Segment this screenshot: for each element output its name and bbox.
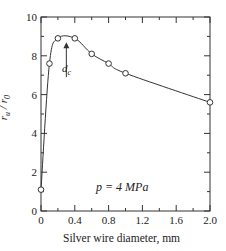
chart-canvas: 00.40.81.21.62.00246810	[0, 0, 226, 251]
data-point	[123, 70, 129, 76]
dc-sub: c	[68, 68, 72, 77]
x-tick-label: 0.4	[68, 214, 82, 226]
x-tick-label: 0.8	[102, 214, 116, 226]
data-point	[47, 61, 53, 67]
data-point	[38, 187, 44, 193]
data-point	[89, 51, 95, 57]
x-tick-label: 1.2	[136, 214, 150, 226]
y-tick-label: 8	[32, 50, 38, 62]
y-tick-label: 2	[32, 166, 38, 178]
dc-annotation: dc	[62, 62, 71, 77]
y-tick-label: 10	[26, 11, 38, 23]
x-axis-label: Silver wire diameter, mm	[63, 232, 180, 244]
x-tick-label: 2.0	[203, 214, 217, 226]
x-tick-label: 1.6	[169, 214, 183, 226]
data-point	[106, 61, 112, 67]
pressure-annotation: p = 4 MPa	[96, 180, 148, 195]
y-tick-label: 0	[32, 205, 38, 217]
y-axis-label: ru / r0	[0, 95, 12, 120]
y-tick-label: 4	[32, 127, 38, 139]
dc-arrow-head	[63, 42, 69, 48]
data-point	[55, 36, 61, 42]
data-point	[72, 36, 78, 42]
data-point	[207, 100, 213, 106]
y-tick-label: 6	[32, 89, 38, 101]
x-tick-label: 0	[38, 214, 44, 226]
